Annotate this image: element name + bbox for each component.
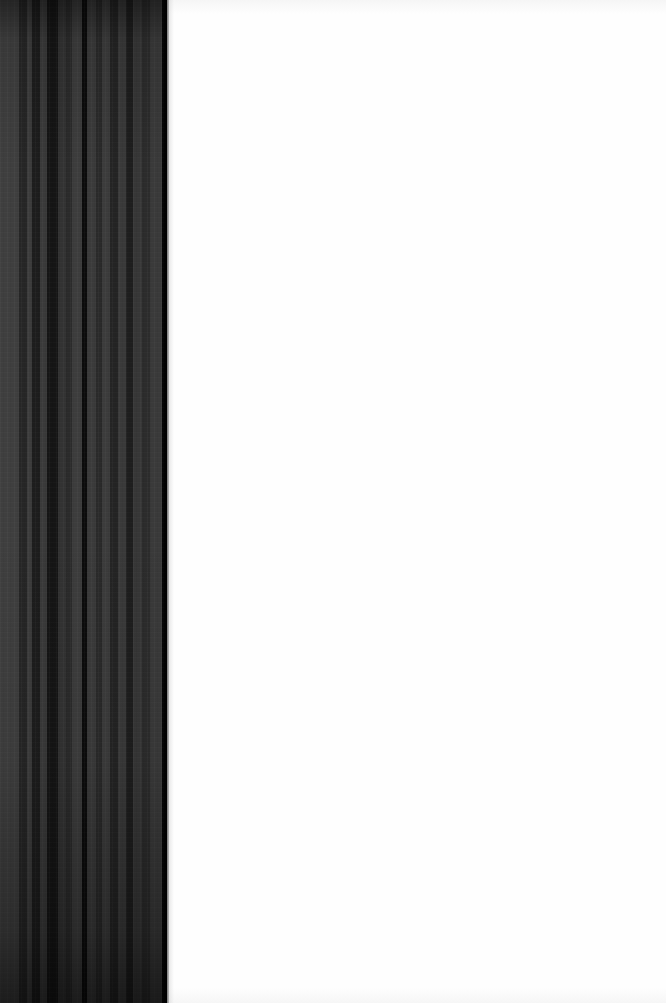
dark-striped-margin [0, 0, 167, 1003]
screenshot-root [0, 0, 666, 1003]
stripe-vertical-shading [0, 0, 167, 1003]
page-fold-highlight [167, 0, 174, 1003]
blank-page-area [167, 0, 666, 1003]
